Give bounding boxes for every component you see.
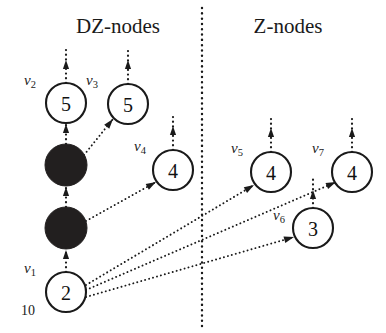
arrowhead-e-v1-b2 [63, 250, 69, 259]
edge-e-b2-v4 [86, 182, 156, 221]
arrowhead-e-v1-v6 [283, 237, 294, 243]
arrowhead-e-v1-v5 [244, 185, 254, 193]
node-label-v5: v5 [231, 140, 243, 158]
arrowhead-stub-v2 [63, 60, 69, 69]
arrowhead-stub-v4 [170, 126, 176, 135]
node-value-v5: 4 [266, 162, 276, 184]
node-value-v6: 3 [308, 218, 318, 240]
diagram-canvas: 2554434 v1v2v3v4v5v6v710DZ-nodesZ-nodes [0, 0, 386, 333]
node-value-v1: 2 [61, 282, 71, 304]
node-label-v1: v1 [24, 260, 36, 278]
column-header-z: Z-nodes [254, 14, 323, 38]
node-value-v3: 5 [123, 94, 133, 116]
arrowhead-e-b2-b1 [63, 187, 69, 196]
edges-group [63, 48, 355, 297]
arrowhead-e-b1-v3 [104, 119, 113, 129]
filled-node-b1 [45, 144, 87, 186]
node-value-v2: 5 [61, 93, 71, 115]
node-value-v4: 4 [168, 160, 178, 182]
node-label-v3: v3 [86, 72, 98, 90]
edge-e-v1-v6 [86, 237, 294, 297]
arrowhead-stub-v3 [125, 60, 131, 69]
edge-e-v1-v5 [86, 185, 254, 285]
arrowhead-stub-v5 [268, 128, 274, 137]
node-value-v7: 4 [347, 162, 357, 184]
node-label-v6: v6 [273, 207, 285, 225]
graph-diagram: 2554434 v1v2v3v4v5v6v710DZ-nodesZ-nodes [0, 0, 386, 333]
node-label-v7: v7 [312, 140, 324, 158]
filled-node-b2 [45, 207, 87, 249]
nodes-group: 2554434 [45, 83, 372, 312]
arrowhead-e-b2-v4 [146, 182, 156, 190]
node-label-v2: v2 [24, 72, 36, 90]
arrowhead-stub-v7 [349, 128, 355, 137]
weight-label-w1: 10 [21, 303, 35, 318]
column-header-dz: DZ-nodes [76, 14, 160, 38]
arrowhead-e-b1-v2 [63, 124, 69, 133]
node-label-v4: v4 [134, 138, 147, 156]
